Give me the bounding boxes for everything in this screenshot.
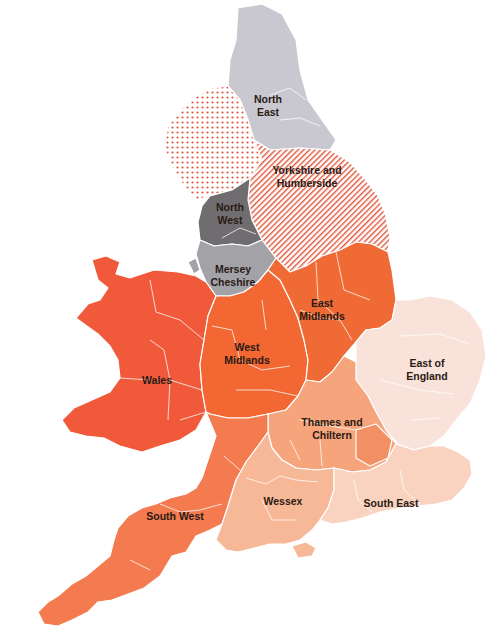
label-north-east: NorthEast xyxy=(254,93,282,118)
label-mersey-cheshire: MerseyCheshire xyxy=(211,263,256,288)
label-yorkshire: Yorkshire andHumberside xyxy=(272,164,341,189)
label-south-east: South East xyxy=(364,497,419,509)
label-north-west: NorthWest xyxy=(216,201,244,226)
england-wales-regions-map: NorthEast Yorkshire andHumberside NorthW… xyxy=(0,0,492,634)
label-east-of-england: East ofEngland xyxy=(406,357,447,382)
label-wessex: Wessex xyxy=(264,495,303,507)
label-wales: Wales xyxy=(142,374,172,386)
label-south-west: South West xyxy=(146,510,204,522)
region-wales[interactable] xyxy=(62,256,216,452)
isle-of-wight xyxy=(292,542,316,558)
